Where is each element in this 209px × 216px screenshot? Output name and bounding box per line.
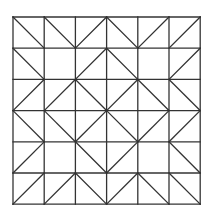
diagonal-line-down	[107, 17, 138, 48]
diagonal-line-down	[169, 173, 200, 204]
diagonal-line-up	[169, 17, 200, 48]
diagonal-line-up	[138, 111, 169, 142]
diagonal-line-down	[44, 17, 75, 48]
diagonal-line-down	[13, 48, 44, 79]
diagonal-line-down	[75, 173, 106, 204]
diagonal-line-up	[138, 17, 169, 48]
diagonal-line-up	[44, 79, 75, 110]
diagonal-line-up	[169, 48, 200, 79]
diagonal-line-down	[44, 111, 75, 142]
diagonal-line-down	[169, 79, 200, 110]
diagonal-line-down	[107, 111, 138, 142]
diagonal-line-down	[107, 48, 138, 79]
diagonal-line-up	[44, 173, 75, 204]
diagonal-line-down	[138, 79, 169, 110]
diagonal-line-down	[13, 111, 44, 142]
diagonal-line-up	[75, 48, 106, 79]
diagonal-line-up	[13, 79, 44, 110]
diagonal-line-up	[75, 111, 106, 142]
diagonal-line-down	[13, 17, 44, 48]
diagonal-line-down	[75, 142, 106, 173]
diagonal-line-up	[169, 111, 200, 142]
diagonal-line-up	[13, 142, 44, 173]
diagonal-line-up	[13, 173, 44, 204]
diagonal-line-up	[107, 173, 138, 204]
grid-diagram	[0, 0, 209, 216]
diagonal-line-up	[107, 79, 138, 110]
diagonal-line-up	[107, 142, 138, 173]
diagonal-line-down	[169, 142, 200, 173]
diagonal-line-down	[75, 79, 106, 110]
diagonal-line-up	[75, 17, 106, 48]
diagonal-line-down	[138, 173, 169, 204]
